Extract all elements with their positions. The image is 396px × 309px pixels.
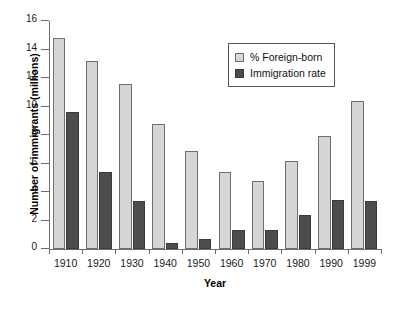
legend-swatch-icon [235, 69, 244, 78]
bar-1980-immigration-rate [299, 215, 312, 249]
x-axis-tick [182, 249, 183, 254]
x-axis-tick [248, 249, 249, 254]
y-axis-tick-label: 4 [31, 184, 37, 195]
x-axis-tick-label: 1920 [82, 257, 115, 269]
bar-1980-foreign-born [285, 161, 298, 249]
y-axis-tick: 8 [41, 134, 49, 135]
bar-1990-immigration-rate [332, 200, 345, 249]
bar-1960-foreign-born [219, 172, 232, 249]
x-axis-tick [215, 249, 216, 254]
bar-1920-immigration-rate [99, 172, 112, 249]
bar-1930-immigration-rate [133, 201, 146, 249]
legend-item-label: Immigration rate [250, 67, 326, 79]
x-axis-tick [82, 249, 83, 254]
y-axis-tick: 14 [41, 49, 49, 50]
legend-swatch-icon [235, 53, 244, 62]
legend-item-label: % Foreign-born [250, 51, 322, 63]
y-axis-tick: 10 [41, 106, 49, 107]
x-axis-tick-label: 1930 [115, 257, 148, 269]
x-axis-tick-label: 1940 [149, 257, 182, 269]
x-axis-tick [115, 249, 116, 254]
y-axis-tick: 6 [41, 163, 49, 164]
legend-item: Immigration rate [235, 65, 326, 81]
y-axis-tick: 4 [41, 191, 49, 192]
bar-1940-foreign-born [152, 124, 165, 249]
x-axis-tick-label: 1990 [315, 257, 348, 269]
y-axis-tick-label: 0 [31, 241, 37, 252]
y-axis-tick-label: 8 [31, 127, 37, 138]
bar-1990-foreign-born [318, 136, 331, 249]
bar-1910-immigration-rate [66, 112, 79, 249]
bar-1910-foreign-born [53, 38, 66, 249]
bar-1999-foreign-born [351, 101, 364, 249]
y-axis-tick: 16 [41, 20, 49, 21]
x-axis-tick-label: 1999 [348, 257, 381, 269]
bar-1920-foreign-born [86, 61, 99, 249]
x-axis-tick [149, 249, 150, 254]
bar-1970-immigration-rate [265, 230, 278, 249]
chart-legend: % Foreign-bornImmigration rate [228, 43, 335, 87]
bar-1950-immigration-rate [199, 239, 212, 249]
x-axis-tick [49, 249, 50, 254]
x-axis-tick [281, 249, 282, 254]
y-axis-tick-label: 12 [26, 70, 37, 81]
bar-1940-immigration-rate [166, 243, 179, 249]
bar-1999-immigration-rate [365, 201, 378, 249]
x-axis-tick-label: 1970 [248, 257, 281, 269]
bar-1970-foreign-born [252, 181, 265, 249]
x-axis-tick [315, 249, 316, 254]
x-axis-title: Year [49, 277, 381, 289]
bar-1950-foreign-born [185, 151, 198, 249]
y-axis-tick-label: 14 [26, 42, 37, 53]
y-axis-tick: 12 [41, 77, 49, 78]
bar-1960-immigration-rate [232, 230, 245, 249]
x-axis-tick-label: 1950 [182, 257, 215, 269]
y-axis-tick-label: 16 [26, 13, 37, 24]
immigration-bar-chart: Number of immigrants (millions) 02468101… [0, 0, 396, 309]
x-axis-tick-label: 1980 [281, 257, 314, 269]
y-axis-tick-label: 2 [31, 213, 37, 224]
bar-1930-foreign-born [119, 84, 132, 249]
y-axis-tick: 2 [41, 220, 49, 221]
y-axis-tick-label: 6 [31, 156, 37, 167]
x-axis-tick [348, 249, 349, 254]
x-axis-tick-label: 1910 [49, 257, 82, 269]
y-axis-tick: 0 [41, 248, 49, 249]
x-axis-tick [381, 249, 382, 254]
legend-item: % Foreign-born [235, 49, 326, 65]
x-axis-tick-label: 1960 [215, 257, 248, 269]
y-axis-line [49, 21, 50, 250]
y-axis-tick-label: 10 [26, 99, 37, 110]
